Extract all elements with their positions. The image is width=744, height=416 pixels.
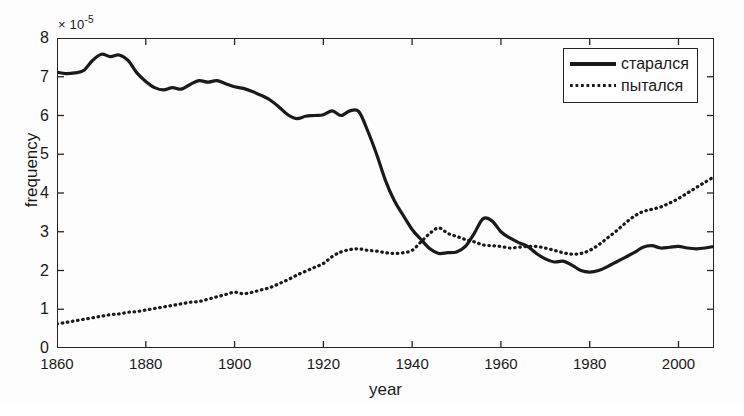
- x-tick-label: 1900: [205, 356, 265, 371]
- legend-item-pytalsya: пытался: [570, 75, 691, 97]
- x-tick-label: 1880: [116, 356, 176, 371]
- legend-label-pytalsya: пытался: [621, 77, 683, 95]
- chart-figure: × 10-5 012345678 18601880190019201940196…: [0, 0, 744, 416]
- y-axis-multiplier: × 10-5: [58, 14, 94, 32]
- scan-artifact-band: [0, 402, 744, 416]
- chart-legend: старался пытался: [563, 48, 698, 103]
- x-tick-label: 1860: [27, 356, 87, 371]
- legend-item-staralsya: старался: [570, 53, 691, 75]
- legend-solid-line-swatch: [570, 58, 616, 70]
- legend-dotted-line-swatch: [570, 80, 616, 92]
- x-tick-label: 1940: [382, 356, 442, 371]
- x-tick-label: 1980: [560, 356, 620, 371]
- x-tick-label: 1920: [293, 356, 353, 371]
- y-tick-label: 0: [9, 340, 49, 356]
- y-axis-multiplier-exponent: -5: [84, 14, 93, 25]
- y-axis-multiplier-base: × 10: [58, 17, 84, 32]
- y-axis-title: frequency: [22, 100, 42, 240]
- y-tick-label: 2: [9, 263, 49, 279]
- x-tick-label: 1960: [471, 356, 531, 371]
- y-tick-label: 7: [9, 69, 49, 85]
- y-tick-label: 1: [9, 301, 49, 317]
- x-axis-title: year: [57, 380, 714, 400]
- legend-label-staralsya: старался: [621, 55, 689, 73]
- y-tick-label: 8: [9, 30, 49, 46]
- x-tick-label: 2000: [648, 356, 708, 371]
